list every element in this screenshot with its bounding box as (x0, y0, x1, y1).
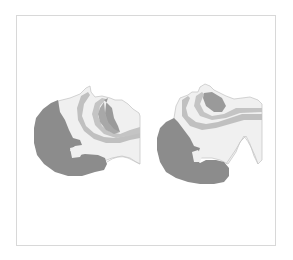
right-head-illustration (157, 84, 262, 184)
airway-diagram (0, 0, 293, 260)
left-head-illustration (34, 86, 140, 176)
